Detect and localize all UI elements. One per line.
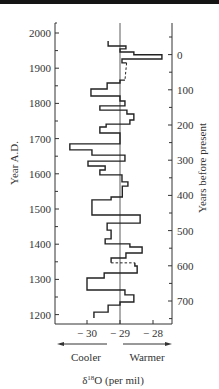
plot-frame — [55, 23, 172, 324]
dashed-segment — [125, 63, 127, 80]
y-left-tick-label: 2000 — [29, 27, 52, 39]
y-left-tick-label: 1500 — [29, 203, 52, 215]
y-right-tick-label: 500 — [177, 225, 194, 237]
y-right-tick-label: 100 — [177, 84, 194, 96]
y-right-tick-label: 0 — [177, 49, 183, 61]
x-tick-label: − 30 — [77, 327, 97, 339]
y-left-axis-title: Year A.D. — [8, 141, 20, 185]
y-left-tick-label: 1900 — [29, 62, 52, 74]
x-tick-label: − 29 — [110, 327, 130, 339]
y-left-tick-label: 1400 — [29, 238, 52, 250]
y-right-tick-label: 300 — [177, 154, 194, 166]
y-left-tick-label: 1600 — [29, 168, 52, 180]
x-tick-label: − 28 — [143, 327, 163, 339]
warmer-arrow — [123, 342, 172, 346]
y-right-tick-label: 400 — [177, 189, 194, 201]
y-left-tick-label: 1200 — [29, 309, 52, 321]
step-line — [70, 41, 162, 318]
y-right-tick-label: 200 — [177, 119, 194, 131]
chart: 200019001800170016001500140013001200 010… — [0, 0, 219, 389]
cooler-label: Cooler — [71, 351, 101, 363]
y-left-tick-label: 1300 — [29, 273, 52, 285]
y-right-tick-label: 600 — [177, 260, 194, 272]
y-right-tick-label: 700 — [177, 295, 194, 307]
data-series-step-line — [70, 41, 162, 318]
plot-border — [55, 23, 172, 324]
warmer-label: Warmer — [129, 351, 164, 363]
y-left-tick-label: 1700 — [29, 133, 52, 145]
y-right-axis-title: Years before present — [196, 123, 208, 213]
x-axis-title: δ18O (per mil) — [82, 374, 144, 387]
cooler-arrow — [57, 342, 107, 346]
y-left-tick-label: 1800 — [29, 97, 52, 109]
